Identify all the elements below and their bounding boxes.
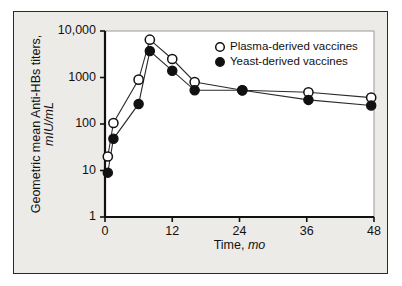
data-point-1-1	[103, 152, 112, 161]
data-point-2-4	[145, 46, 154, 55]
figure-panel: 110100100010,000012243648Time, moGeometr…	[13, 11, 388, 274]
y-axis-tick-label: 10	[82, 163, 96, 177]
y-axis-tick-label: 1000	[68, 70, 96, 84]
data-point-2-3	[134, 99, 143, 108]
y-axis-title-units: mIU/mL	[42, 102, 56, 146]
x-axis-tick-label: 0	[102, 224, 109, 238]
x-axis-tick-label: 24	[233, 224, 247, 238]
x-axis-tick-label: 12	[165, 224, 179, 238]
legend-marker-1	[216, 43, 225, 52]
x-axis-title: Time, mo	[214, 238, 266, 252]
data-point-1-4	[145, 35, 154, 44]
y-axis-tick-label: 100	[75, 116, 96, 130]
legend-label-1: Plasma-derived vaccines	[230, 40, 358, 52]
data-point-2-6	[190, 86, 199, 95]
data-point-1-5	[168, 54, 177, 63]
data-point-1-2	[109, 118, 118, 127]
data-point-2-5	[168, 66, 177, 75]
data-point-2-9	[367, 101, 376, 110]
legend-label-2: Yeast-derived vaccines	[230, 55, 348, 67]
x-axis-tick-label: 36	[300, 224, 314, 238]
data-point-1-3	[134, 75, 143, 84]
x-axis-tick-label: 48	[367, 224, 381, 238]
legend-marker-2	[216, 58, 225, 67]
data-point-2-8	[304, 95, 313, 104]
y-axis-tick-label: 1	[89, 209, 96, 223]
data-point-2-7	[238, 86, 247, 95]
anti-hbs-titer-line-chart: 110100100010,000012243648Time, moGeometr…	[14, 12, 387, 273]
y-axis-tick-label: 10,000	[58, 23, 96, 37]
chart-canvas: 110100100010,000012243648Time, moGeometr…	[14, 12, 387, 273]
data-point-2-2	[109, 134, 118, 143]
data-point-2-1	[103, 168, 112, 177]
y-axis-title: Geometric mean Anti-HBs titers,	[29, 35, 43, 214]
